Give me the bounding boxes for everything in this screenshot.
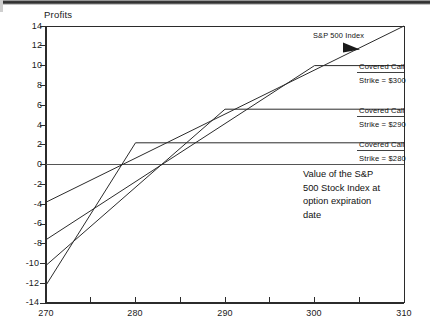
x-axis-note-line-4: date xyxy=(303,209,407,223)
chart-page: Profits 14 12 10 8 6 4 2 0 -2 -4 -6 -8 -… xyxy=(0,0,430,329)
x-axis-note-line-3: option expiration xyxy=(303,195,407,209)
x-axis-note-line-2: 500 Stock Index at xyxy=(303,182,407,196)
annotation-covered-call-280-title: Covered Call xyxy=(359,140,405,149)
annotation-covered-call-290-strike: Strike = $290 xyxy=(359,120,406,129)
x-axis-note: Value of the S&P 500 Stock Index at opti… xyxy=(303,168,407,222)
x-axis-note-line-1: Value of the S&P xyxy=(303,168,407,182)
annotation-covered-call-290-title: Covered Call xyxy=(359,106,405,115)
y-tick-marks xyxy=(40,26,46,303)
arrow-right-icon xyxy=(343,43,360,53)
plot-area xyxy=(0,0,430,329)
annotation-covered-call-280-strike: Strike = $280 xyxy=(359,154,406,163)
x-tick-marks xyxy=(46,297,404,303)
annotation-covered-call-300-strike: Strike = $300 xyxy=(359,76,406,85)
annotation-sp500-index: S&P 500 Index xyxy=(313,31,364,40)
annotation-covered-call-300-title: Covered Call xyxy=(359,62,405,71)
